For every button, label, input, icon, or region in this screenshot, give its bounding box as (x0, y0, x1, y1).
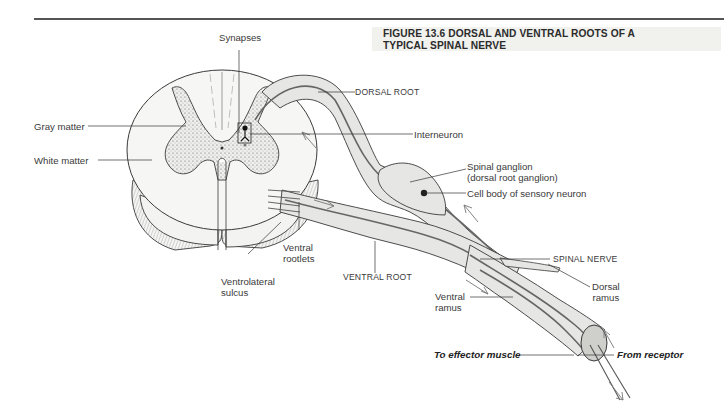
label-ventral-root: VENTRAL ROOT (343, 272, 412, 283)
label-dorsal-ramus-line-2: ramus (592, 292, 620, 303)
label-to-effector-muscle: To effector muscle (434, 349, 521, 360)
label-ventrolateral-sulcus-line-1: Ventrolateral (221, 276, 275, 287)
label-from-receptor: From receptor (617, 349, 683, 360)
label-ventral-ramus: Ventral ramus (435, 291, 465, 313)
label-spinal-ganglion-line-1: Spinal ganglion (467, 161, 558, 172)
label-ventral-rootlets-line-2: rootlets (283, 253, 314, 264)
label-dorsal-ramus: Dorsal ramus (592, 281, 620, 303)
label-ventral-ramus-line-2: ramus (435, 302, 465, 313)
label-ventrolateral-sulcus-line-2: sulcus (221, 287, 275, 298)
label-ventral-rootlets-line-1: Ventral (283, 242, 314, 253)
label-dorsal-ramus-line-1: Dorsal (592, 281, 620, 292)
label-white-matter: White matter (34, 155, 88, 166)
label-spinal-nerve: SPINAL NERVE (553, 254, 618, 265)
spinal-ganglion (378, 163, 446, 215)
label-synapses: Synapses (219, 32, 261, 43)
label-cell-body: Cell body of sensory neuron (467, 188, 586, 199)
label-ventrolateral-sulcus: Ventrolateral sulcus (221, 276, 275, 298)
label-ventral-ramus-line-1: Ventral (435, 291, 465, 302)
label-gray-matter: Gray matter (34, 121, 85, 132)
spinal-nerve (465, 245, 630, 400)
label-spinal-ganglion: Spinal ganglion (dorsal root ganglion) (467, 161, 558, 183)
nerve-cross-section (581, 325, 607, 361)
label-ventral-rootlets: Ventral rootlets (283, 242, 314, 264)
label-interneuron: Interneuron (414, 129, 463, 140)
label-dorsal-root: DORSAL ROOT (355, 87, 419, 98)
label-spinal-ganglion-line-2: (dorsal root ganglion) (467, 172, 558, 183)
